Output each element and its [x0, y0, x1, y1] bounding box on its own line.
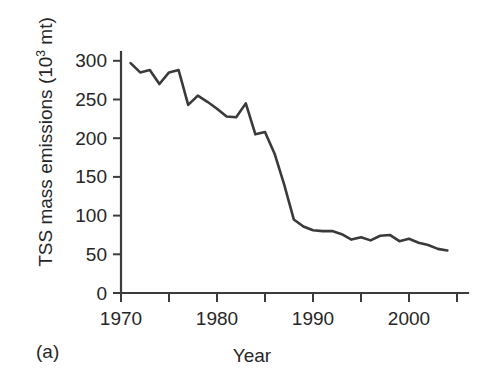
x-axis-title: Year: [0, 345, 504, 367]
x-tick-label: 1990: [292, 308, 334, 329]
x-tick-label: 1970: [100, 308, 142, 329]
x-axis-tick-labels: 1970198019902000: [100, 308, 430, 329]
y-axis-title-suffix: mt): [35, 17, 56, 50]
chart-figure: 050100150200250300 1970198019902000 TSS …: [0, 0, 504, 382]
panel-label: (a): [36, 341, 59, 363]
y-axis-title-exponent: 3: [34, 50, 48, 57]
y-tick-label: 300: [75, 50, 107, 71]
y-tick-label: 100: [75, 205, 107, 226]
y-tick-label: 0: [96, 283, 107, 304]
y-axis-ticks: [113, 61, 121, 293]
data-series-line: [131, 63, 448, 250]
y-tick-label: 150: [75, 166, 107, 187]
y-axis-title: TSS mass emissions (103 mt): [31, 7, 61, 277]
y-tick-label: 50: [86, 244, 107, 265]
y-tick-label: 250: [75, 89, 107, 110]
y-axis-tick-labels: 050100150200250300: [75, 50, 107, 303]
chart-axes: [121, 52, 468, 293]
y-tick-label: 200: [75, 128, 107, 149]
x-tick-label: 1980: [196, 308, 238, 329]
x-tick-label: 2000: [388, 308, 430, 329]
y-axis-title-main: TSS mass emissions (10: [35, 57, 56, 267]
chart-canvas: 050100150200250300 1970198019902000: [0, 0, 504, 382]
y-axis-title-text: TSS mass emissions (103 mt): [35, 17, 57, 267]
x-axis-ticks: [121, 293, 457, 302]
